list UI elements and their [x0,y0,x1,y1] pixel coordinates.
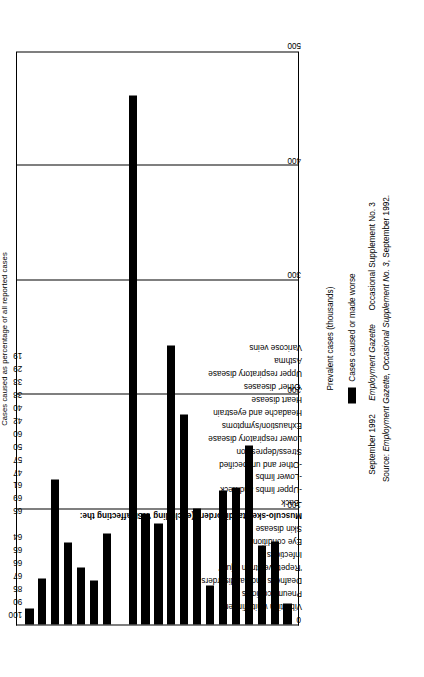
bar-chart-figure: Cases caused as percentage of all report… [0,0,424,677]
value-axis-caption: Prevalent cases (thousands) [326,51,335,625]
bar-row [219,51,227,624]
bar-row [232,51,240,624]
value-axis-tick: 400 [287,154,301,162]
bar-row [206,51,214,624]
bar [77,567,85,624]
credit-date: September 1992 [368,414,377,475]
bar [129,95,137,624]
source-tail: , September 1992. [382,194,391,261]
category-label: Varicose veins [249,342,302,350]
bar-row [38,51,46,624]
bar [64,543,72,625]
bar [103,533,111,624]
bar-row [193,51,201,624]
category-label: Skin disease [256,523,302,531]
category-label: -Back [281,497,302,505]
category-label: Stress/depression [236,446,302,454]
percentage-label-layer: 1009085676665646569614757506042403833291… [0,51,16,625]
source-prefix: Source: [382,451,391,482]
bar-row [180,51,188,624]
category-label: Lower respiratory disease [208,433,302,441]
credit-publication: Employment Gazette [368,324,377,400]
category-label: Upper respiratory disease [208,368,302,376]
bar [193,508,201,624]
category-label: Infections [267,549,302,557]
credit-supplement: Occasional Supplement No. 3 [368,202,377,310]
bar-row [129,51,137,624]
bar-row [167,51,175,624]
category-label: Pneumoconiosis [242,587,302,595]
bar-row [103,51,111,624]
category-label: Exhaustion/symptoms [222,420,302,428]
bar-row [77,51,85,624]
category-label: Heart disease [251,394,302,402]
category-label: -Lower limbs [256,471,302,479]
bar-row [90,51,98,624]
category-label: Musculo-skeletal disorders (excluding 'R… [80,510,302,518]
category-label: 'Repetitive strain injury' [218,562,302,570]
chart-stage: Cases caused as percentage of all report… [0,0,424,677]
bar [154,523,162,624]
bar [51,479,59,624]
category-label: Vibration white finger [226,600,302,608]
bar-row [141,51,149,624]
value-axis-tick: 500 [287,40,301,48]
bar [206,585,214,624]
category-label: -Other and unspecified [219,458,302,466]
legend: Cases caused or made worse [348,51,357,625]
bar [141,513,149,624]
source-line: Source: Employment Gazette, Occasional S… [382,51,391,625]
value-axis-tick: 300 [287,269,301,277]
bar [90,580,98,624]
legend-label: Cases caused or made worse [348,273,357,381]
category-label: Headache and eyestrain [213,407,302,415]
bar-row [64,51,72,624]
category-label: 'Other' diseases [244,381,302,389]
bar [38,578,46,624]
bar-row [51,51,59,624]
bar [167,345,175,624]
bar-row [154,51,162,624]
category-label: Deafness and ear disorders [201,575,302,583]
category-label: Eye conditions [249,536,302,544]
bar-row [25,51,33,624]
category-label-layer: Vibration white fingerPneumoconiosisDeaf… [300,51,420,625]
category-label: -Upper limbs and neck [220,484,302,492]
bar [25,608,33,624]
legend-swatch-icon [348,387,356,403]
source-italic: Employment Gazette, Occasional Supplemen… [382,262,391,451]
credit-line: September 1992 Employment Gazette Occasi… [368,51,377,625]
category-label: Asthma [274,355,302,363]
